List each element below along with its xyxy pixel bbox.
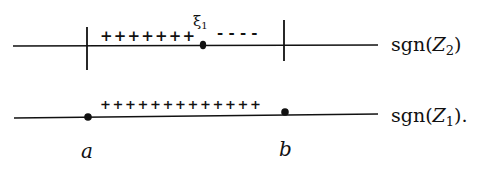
bottom-axis-line xyxy=(14,114,378,118)
top-plus-signs: +++++++ xyxy=(100,27,196,45)
sgn-z2-label: sgn(Z2) xyxy=(391,33,461,58)
top-minus-signs: - - - - xyxy=(217,24,258,42)
label-b: b xyxy=(279,137,292,161)
bottom-plus-signs: +++++++++++++ xyxy=(100,97,262,112)
sgn-z1-label: sgn(Z1). xyxy=(391,104,468,129)
top-axis-line xyxy=(13,45,378,46)
label-a: a xyxy=(81,139,93,163)
sign-diagram: +++++++ - - - - ξ1 sgn(Z2) +++++++++++++… xyxy=(0,0,492,169)
xi1-point xyxy=(200,41,206,49)
point-a xyxy=(84,113,92,121)
point-b xyxy=(281,108,289,116)
xi1-label: ξ1 xyxy=(193,12,208,31)
